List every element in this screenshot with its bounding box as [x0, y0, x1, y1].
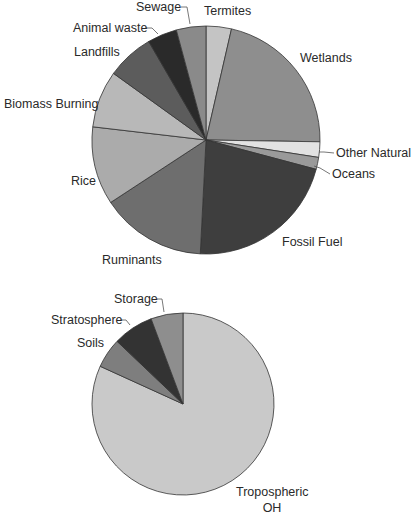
methane-sources-pie: SewageTermitesAnimal wasteWetlandsLandfi…: [4, 0, 411, 267]
leader-line-sewage: [181, 7, 190, 24]
leader-line-oceans: [314, 166, 330, 174]
label-oceans: Oceans: [332, 167, 375, 181]
label-fossil-fuel: Fossil Fuel: [282, 235, 342, 249]
label-soils: Soils: [77, 336, 104, 350]
leader-line-storage: [157, 299, 164, 312]
label-animal-waste: Animal waste: [73, 21, 147, 35]
label-storage: Storage: [114, 292, 158, 306]
methane-sinks-pie: StorageStratosphereSoilsTroposphericOH: [51, 292, 309, 515]
label-stratosphere: Stratosphere: [51, 313, 123, 327]
label-tropospheric: Tropospheric: [236, 485, 309, 499]
label-landfills: Landfills: [74, 45, 120, 59]
label-other-natural: Other Natural: [336, 146, 411, 160]
leader-line-other-natural: [319, 152, 334, 153]
label-wetlands: Wetlands: [300, 51, 352, 65]
label-biomass-burning: Biomass Burning: [4, 97, 99, 111]
label-termites: Termites: [204, 4, 251, 18]
label-ruminants: Ruminants: [102, 253, 162, 267]
label-rice: Rice: [71, 174, 96, 188]
label-sewage: Sewage: [136, 0, 181, 14]
label-oh: OH: [263, 501, 282, 515]
pie-charts-canvas: SewageTermitesAnimal wasteWetlandsLandfi…: [0, 0, 415, 524]
